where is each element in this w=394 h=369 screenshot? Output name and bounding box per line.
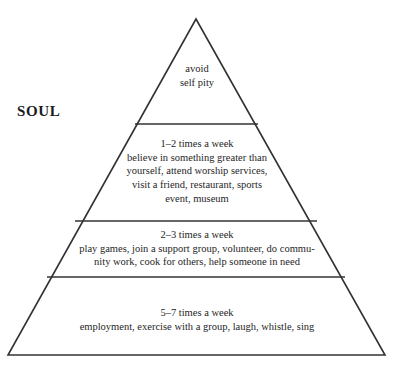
pyramid-diagram-page: SOUL avoid self pity 1–2 times a week be…	[0, 0, 394, 369]
pyramid-tier-1-text: avoid self pity	[148, 62, 246, 89]
pyramid-tier-2-text: 1–2 times a week believe in something gr…	[92, 137, 302, 205]
pyramid-tier-3-text: 2–3 times a week play games, join a supp…	[52, 228, 342, 269]
pyramid-side-label-soul: SOUL	[17, 103, 60, 120]
pyramid-tier-4-text: 5–7 times a week employment, exercise wi…	[28, 306, 366, 333]
